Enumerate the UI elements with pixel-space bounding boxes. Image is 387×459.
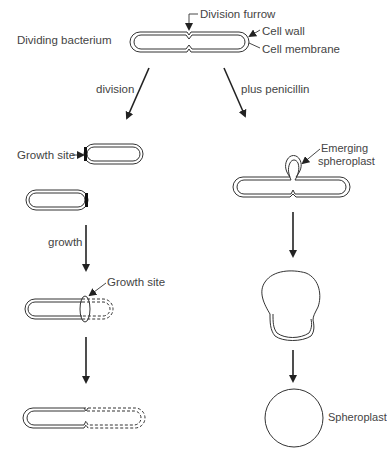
growth-site-mark-1 <box>84 147 87 161</box>
label-spheroplast: Spheroplast <box>328 411 387 423</box>
label-division-furrow: Division furrow <box>200 8 275 21</box>
spheroplast-shape <box>265 389 323 447</box>
growth-site-pointer-2 <box>90 283 106 295</box>
label-plus-penicillin: plus penicillin <box>241 83 309 96</box>
label-growth-site-1: Growth site <box>17 149 75 162</box>
label-emerging: Emerging <box>321 142 368 154</box>
label-growth-site-2: Growth site <box>107 276 165 289</box>
growth-site-mark-2 <box>85 193 88 207</box>
dividing-bacterium <box>130 32 249 52</box>
growing-cell <box>25 296 113 322</box>
daughter-cell-lower <box>26 190 88 210</box>
swelling-cell <box>262 271 320 341</box>
label-growth: growth <box>48 236 83 249</box>
label-cell-membrane: Cell membrane <box>262 43 340 56</box>
new-dividing-cell <box>23 408 145 428</box>
cell-membrane-pointer <box>249 43 260 48</box>
label-division: division <box>96 83 134 96</box>
label-spheroplast-emerging: spheroplast <box>318 155 375 167</box>
label-dividing-bacterium: Dividing bacterium <box>17 34 112 47</box>
cell-wall-pointer <box>250 30 260 36</box>
daughter-cell-upper <box>84 144 143 164</box>
division-furrow-pointer <box>189 14 198 29</box>
label-cell-wall: Cell wall <box>262 25 305 38</box>
